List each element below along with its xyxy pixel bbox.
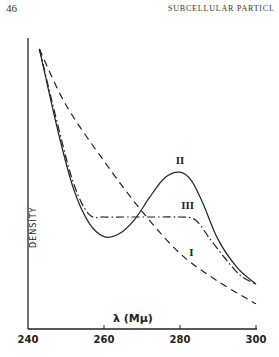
x-tick-label: 280 (170, 334, 191, 345)
chart-curves (39, 49, 256, 304)
curve-ii (39, 49, 256, 284)
absorption-spectrum-chart: 240260280300 DENSITY λ (Mμ) IIIIII (0, 0, 279, 357)
x-axis-label: λ (Mμ) (113, 312, 153, 325)
x-tick-label: 240 (18, 334, 39, 345)
curve-label-i: I (189, 246, 193, 258)
chart-axes (28, 38, 257, 329)
y-axis-label: DENSITY (29, 207, 38, 248)
curve-label-iii: III (181, 199, 194, 211)
x-ticks: 240260280300 (18, 325, 267, 345)
x-tick-label: 260 (94, 334, 115, 345)
x-tick-label: 300 (246, 334, 267, 345)
curve-labels: IIIIII (176, 154, 194, 258)
curve-label-ii: II (176, 154, 185, 166)
